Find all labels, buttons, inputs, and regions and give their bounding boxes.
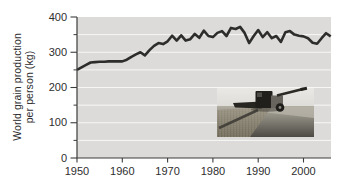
- figure-grain-production: 0100200300400195019601970198019902000 Wo…: [0, 0, 343, 190]
- y-tick-label: 0: [61, 152, 67, 164]
- grain-production-chart: 0100200300400195019601970198019902000 Wo…: [0, 0, 343, 190]
- x-tick-label: 1990: [246, 165, 270, 177]
- y-tick-label: 200: [49, 81, 67, 93]
- y-tick-label: 300: [49, 46, 67, 58]
- x-tick-label: 1950: [65, 165, 89, 177]
- combine-cab: [257, 93, 262, 98]
- x-tick-label: 1980: [201, 165, 225, 177]
- combine-wheel-hub: [279, 106, 282, 109]
- y-tick-label: 100: [49, 116, 67, 128]
- y-axis-title-line2: per person (kg): [23, 51, 35, 124]
- y-axis-title-line1: World grain production: [11, 33, 23, 141]
- x-tick-label: 2000: [291, 165, 315, 177]
- combine-harvester-photo-inset: [217, 87, 314, 137]
- x-tick-label: 1970: [155, 165, 179, 177]
- y-tick-label: 400: [49, 11, 67, 23]
- x-tick-label: 1960: [110, 165, 134, 177]
